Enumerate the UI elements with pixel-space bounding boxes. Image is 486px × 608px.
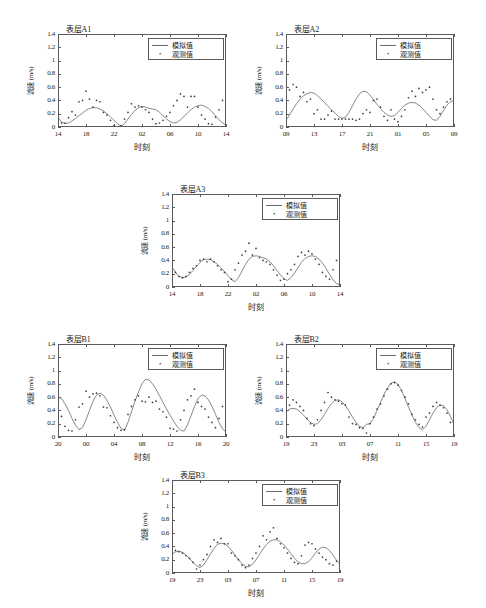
dot-glyph-icon (387, 363, 389, 365)
dot-glyph-icon (159, 53, 161, 55)
series-markers-observed (171, 242, 341, 282)
legend: 模拟值观测值 (262, 198, 338, 220)
chart-panel-表层A3: 表层A300.20.40.60.811.21.4流速 (m/s)14182202… (138, 176, 353, 324)
series-line-simulated (58, 379, 226, 431)
line-glyph-icon (380, 355, 396, 356)
legend-item-observed: 观测值 (151, 359, 221, 368)
legend-label: 观测值 (400, 359, 420, 369)
series-line-simulated (58, 105, 226, 126)
series-line-simulated (172, 256, 340, 285)
legend-line-swatch (379, 41, 397, 49)
legend-item-observed: 观测值 (265, 495, 335, 504)
legend-label: 观测值 (172, 359, 192, 369)
legend-line-swatch (265, 487, 283, 495)
dot-glyph-icon (387, 53, 389, 55)
legend-dot-swatch (379, 50, 397, 58)
dot-glyph-icon (159, 363, 161, 365)
chart-panel-表层B2: 表层B200.20.40.60.811.21.4流速 (m/s)19230307… (252, 326, 467, 474)
legend-item-observed: 观测值 (379, 359, 449, 368)
legend-line-swatch (265, 201, 283, 209)
line-glyph-icon (380, 45, 396, 46)
legend: 模拟值观测值 (148, 38, 224, 60)
series-markers-observed (171, 527, 341, 570)
legend-label: 观测值 (286, 495, 306, 505)
legend-dot-swatch (265, 210, 283, 218)
legend: 模拟值观测值 (148, 348, 224, 370)
legend: 模拟值观测值 (376, 38, 452, 60)
legend-item-observed: 观测值 (151, 49, 221, 58)
series-line-simulated (286, 91, 454, 120)
line-glyph-icon (266, 491, 282, 492)
legend-label: 观测值 (286, 209, 306, 219)
legend-item-observed: 观测值 (379, 49, 449, 58)
legend-dot-swatch (265, 496, 283, 504)
legend-label: 观测值 (400, 49, 420, 59)
series-markers-observed (57, 387, 227, 432)
legend-item-observed: 观测值 (265, 209, 335, 218)
legend-line-swatch (379, 351, 397, 359)
legend-line-swatch (151, 41, 169, 49)
legend-dot-swatch (151, 50, 169, 58)
legend: 模拟值观测值 (376, 348, 452, 370)
legend-line-swatch (151, 351, 169, 359)
legend: 模拟值观测值 (262, 484, 338, 506)
series-line-simulated (286, 382, 454, 430)
series-markers-observed (285, 382, 455, 434)
line-glyph-icon (266, 205, 282, 206)
chart-panel-表层B3: 表层B300.20.40.60.811.21.4流速 (m/s)19230307… (138, 462, 353, 608)
chart-panel-表层B1: 表层B100.20.40.60.811.21.4流速 (m/s)20000408… (24, 326, 239, 474)
dot-glyph-icon (273, 213, 275, 215)
chart-panel-表层A1: 表层A100.20.40.60.811.21.4流速 (m/s)14182202… (24, 16, 239, 164)
line-glyph-icon (152, 45, 168, 46)
series-markers-observed (57, 90, 227, 128)
dot-glyph-icon (273, 499, 275, 501)
line-glyph-icon (152, 355, 168, 356)
figure-root: 表层A100.20.40.60.811.21.4流速 (m/s)14182202… (0, 0, 486, 608)
legend-label: 观测值 (172, 49, 192, 59)
legend-dot-swatch (379, 360, 397, 368)
chart-panel-表层A2: 表层A200.20.40.60.811.21.4流速 (m/s)09131721… (252, 16, 467, 164)
legend-dot-swatch (151, 360, 169, 368)
